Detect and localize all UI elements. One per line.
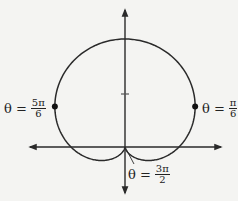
fraction: 5π 6 — [31, 98, 46, 119]
fraction: π 6 — [229, 98, 238, 119]
denominator: 6 — [35, 109, 41, 119]
theta-equals: θ = — [128, 167, 151, 182]
fraction: 3π 2 — [155, 164, 170, 185]
point-dot-5pi-6 — [52, 104, 58, 110]
point-dot-pi-6 — [192, 104, 198, 110]
label-3pi-2: θ = 3π 2 — [128, 164, 170, 185]
denominator: 6 — [230, 109, 236, 119]
label-pi-6: θ = π 6 — [202, 98, 237, 119]
label-5pi-6: θ = 5π 6 — [4, 98, 46, 119]
theta-equals: θ = — [202, 101, 225, 116]
theta-equals: θ = — [4, 101, 27, 116]
denominator: 2 — [159, 175, 165, 185]
leader-line — [125, 147, 134, 164]
